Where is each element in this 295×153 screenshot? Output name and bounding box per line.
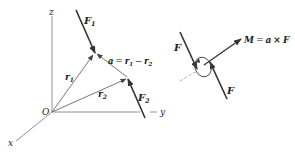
- y-axis-label: y: [159, 107, 166, 117]
- force-bottom-label: F: [226, 85, 235, 96]
- couple-moment-diagram: z y x O F1 F2 r1 r2 a=r1−r2 F F: [0, 0, 295, 153]
- force-bottom-arrow: [210, 62, 227, 99]
- left-diagram: z y x O F1 F2 r1 r2 a=r1−r2: [8, 7, 166, 148]
- moment-vector-arrow: [204, 39, 241, 65]
- vector-r1-label: r1: [65, 72, 74, 83]
- plane-dashed-line: [180, 72, 195, 81]
- force-top-arrow: [180, 32, 197, 69]
- vector-r2: [52, 79, 126, 112]
- origin-label: O: [42, 107, 50, 117]
- vector-r1: [52, 55, 93, 112]
- moment-equation: M=a×F: [243, 35, 290, 45]
- force-f1-label: F1: [83, 15, 96, 28]
- right-diagram: F F M=a×F: [173, 32, 290, 99]
- z-axis-label: z: [48, 7, 54, 17]
- x-axis-label: x: [8, 138, 13, 148]
- vector-r2-label: r2: [98, 89, 107, 100]
- force-top-label: F: [173, 42, 182, 53]
- moment-arm-equation: a=r1−r2: [108, 56, 153, 67]
